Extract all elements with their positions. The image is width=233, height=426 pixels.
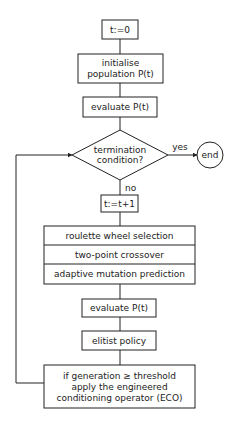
node-init-t: t:=0 — [102, 20, 138, 39]
node-elitist-policy-label: elitist policy — [92, 336, 147, 346]
node-end-label: end — [202, 150, 219, 160]
node-evaluate-2: evaluate P(t) — [82, 299, 156, 317]
node-eco-line3: conditioning operator (ECO) — [56, 393, 182, 403]
operator-crossover: two-point crossover — [75, 250, 164, 260]
operator-mutation: adaptive mutation prediction — [54, 269, 185, 279]
node-eco: if generation ≥ threshold apply the engi… — [44, 365, 195, 408]
node-increment-t-label: t:=t+1 — [104, 199, 135, 209]
node-init-population-line1: initialise — [102, 58, 140, 68]
node-termination-line2: condition? — [97, 155, 144, 165]
node-increment-t: t:=t+1 — [101, 195, 138, 212]
node-termination-decision: termination condition? — [72, 130, 168, 180]
node-init-t-label: t:=0 — [110, 25, 130, 35]
node-elitist-policy: elitist policy — [82, 331, 156, 350]
node-eco-line2: apply the engineered — [71, 382, 167, 392]
node-genetic-operators: roulette wheel selection two-point cross… — [44, 226, 195, 284]
node-termination-line1: termination — [94, 145, 146, 155]
edge-label-no: no — [125, 183, 137, 193]
node-end: end — [197, 142, 223, 168]
operator-selection: roulette wheel selection — [65, 231, 173, 241]
flowchart-canvas: t:=0 initialise population P(t) evaluate… — [0, 0, 233, 426]
node-init-population: initialise population P(t) — [78, 54, 163, 83]
node-evaluate-1: evaluate P(t) — [83, 97, 157, 117]
node-evaluate-2-label: evaluate P(t) — [90, 303, 148, 313]
node-eco-line1: if generation ≥ threshold — [63, 371, 176, 381]
node-evaluate-1-label: evaluate P(t) — [91, 102, 149, 112]
node-init-population-line2: population P(t) — [87, 69, 154, 79]
edge-label-yes: yes — [172, 142, 188, 152]
